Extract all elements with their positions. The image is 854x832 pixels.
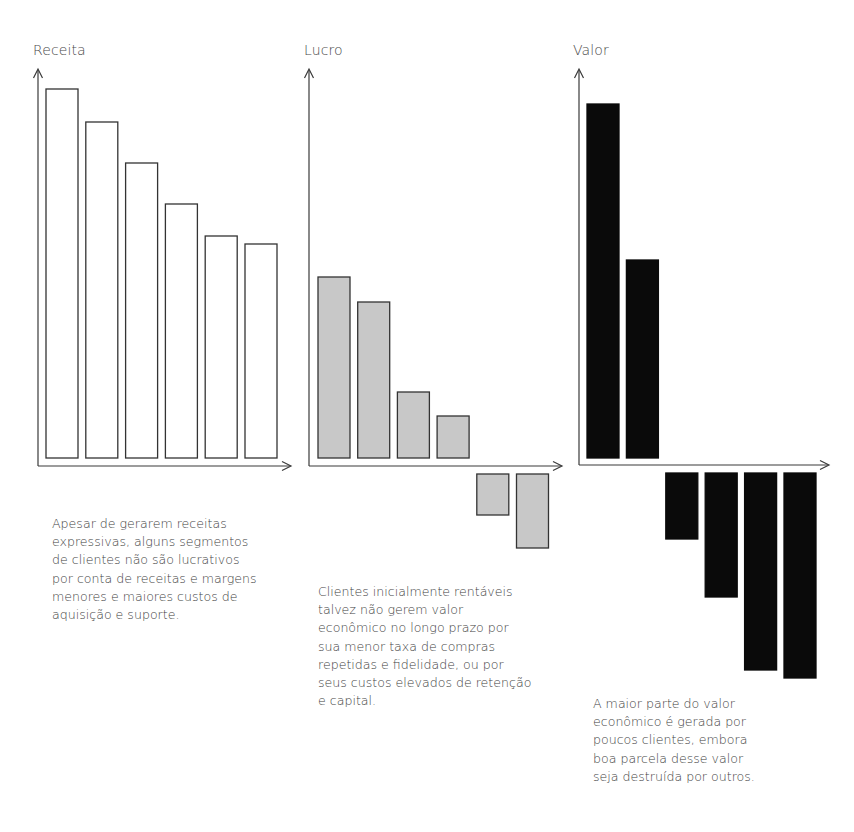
bar-s3: [397, 392, 429, 458]
caption-line: econômico no longo prazo por: [318, 619, 531, 637]
bar-s5: [745, 473, 777, 670]
caption-receita: Apesar de gerarem receitas expressivas, …: [52, 515, 256, 624]
caption-line: Apesar de gerarem receitas: [52, 515, 256, 533]
bar-s2: [626, 260, 658, 458]
caption-line: seus custos elevados de retenção: [318, 674, 531, 692]
bar-s2: [358, 302, 390, 458]
bar-s6: [517, 474, 549, 548]
caption-line: de clientes não são lucrativos: [52, 551, 256, 569]
chart-receita: [34, 69, 292, 471]
chart-valor: [575, 69, 830, 678]
receita-bars: [46, 89, 277, 458]
caption-line: e capital.: [318, 692, 531, 710]
bar-s5: [205, 236, 237, 458]
bar-s4: [437, 416, 469, 458]
caption-lucro: Clientes inicialmente rentáveis talvez n…: [318, 583, 531, 710]
bar-s3: [666, 473, 698, 539]
bar-s4: [705, 473, 737, 597]
bar-s6: [245, 244, 277, 458]
bar-s4: [165, 204, 197, 458]
caption-line: talvez não gerem valor: [318, 601, 531, 619]
caption-line: poucos clientes, embora: [593, 731, 755, 749]
caption-line: seja destruída por outros.: [593, 768, 755, 786]
lucro-bars: [318, 277, 549, 548]
caption-line: expressivas, alguns segmentos: [52, 533, 256, 551]
caption-line: Clientes inicialmente rentáveis: [318, 583, 531, 601]
bar-s3: [126, 163, 158, 458]
caption-line: repetidas e fidelidade, ou por: [318, 656, 531, 674]
caption-line: aquisição e suporte.: [52, 606, 256, 624]
bar-s6: [784, 473, 816, 678]
caption-line: boa parcela desse valor: [593, 750, 755, 768]
bar-s1: [587, 104, 619, 458]
caption-line: econômico é gerada por: [593, 713, 755, 731]
caption-line: menores e maiores custos de: [52, 588, 256, 606]
bar-s5: [477, 474, 509, 515]
caption-line: sua menor taxa de compras: [318, 638, 531, 656]
cropped-footer-caption: [0, 826, 430, 832]
caption-line: por conta de receitas e margens: [52, 570, 256, 588]
bar-s1: [46, 89, 78, 458]
caption-line: A maior parte do valor: [593, 695, 755, 713]
valor-bars: [587, 104, 816, 678]
bar-s2: [86, 122, 118, 458]
chart-lucro: [305, 69, 563, 548]
bar-s1: [318, 277, 350, 458]
caption-valor: A maior parte do valor econômico é gerad…: [593, 695, 755, 786]
